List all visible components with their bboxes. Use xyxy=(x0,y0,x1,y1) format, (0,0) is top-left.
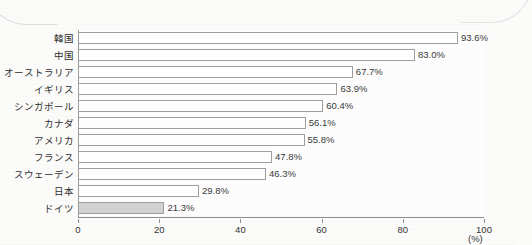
bar xyxy=(78,66,353,78)
bar xyxy=(78,117,306,129)
bar xyxy=(78,202,164,214)
bar-row: 67.7% xyxy=(78,64,484,81)
bar xyxy=(78,151,272,163)
bar-row: 60.4% xyxy=(78,98,484,115)
category-label: カナダ xyxy=(0,117,78,131)
bar-row: 63.9% xyxy=(78,81,484,98)
bar-row: 29.8% xyxy=(78,183,484,200)
x-tick-label: 80 xyxy=(398,223,409,236)
bar xyxy=(78,49,415,61)
bar-value-label: 29.8% xyxy=(202,184,229,198)
category-label: オーストラリア xyxy=(0,66,78,80)
category-label: 中国 xyxy=(0,49,78,63)
bar-row: 56.1% xyxy=(78,115,484,132)
bar-row: 55.8% xyxy=(78,132,484,149)
x-tick-label: 0 xyxy=(75,223,80,236)
category-label: 日本 xyxy=(0,185,78,199)
bar-row: 21.3% xyxy=(78,200,484,217)
bar xyxy=(78,185,199,197)
category-label: 韓国 xyxy=(0,32,78,46)
bar-value-label: 46.3% xyxy=(269,167,296,181)
x-axis-unit-label: (%) xyxy=(468,233,483,245)
x-axis-line xyxy=(78,217,484,218)
x-tick-label: 40 xyxy=(235,223,246,236)
x-tick-label: 60 xyxy=(316,223,327,236)
x-tick-label: 20 xyxy=(154,223,165,236)
bar-value-label: 55.8% xyxy=(308,133,335,147)
bar-value-label: 93.6% xyxy=(461,31,488,45)
category-label: シンガポール xyxy=(0,100,78,114)
bar xyxy=(78,168,266,180)
bar-row: 93.6% xyxy=(78,30,484,47)
bar-value-label: 21.3% xyxy=(167,201,194,215)
bar-value-label: 47.8% xyxy=(275,150,302,164)
category-label: ドイツ xyxy=(0,202,78,216)
bar-row: 83.0% xyxy=(78,47,484,64)
category-label: スウェーデン xyxy=(0,168,78,182)
bar xyxy=(78,32,458,44)
bar-value-label: 83.0% xyxy=(418,48,445,62)
bar xyxy=(78,83,337,95)
bar xyxy=(78,134,305,146)
category-label: フランス xyxy=(0,151,78,165)
bar xyxy=(78,100,323,112)
bar-value-label: 60.4% xyxy=(326,99,353,113)
bar-value-label: 56.1% xyxy=(309,116,336,130)
bar-value-label: 63.9% xyxy=(340,82,367,96)
bar-row: 47.8% xyxy=(78,149,484,166)
category-label: イギリス xyxy=(0,83,78,97)
category-label: アメリカ xyxy=(0,134,78,148)
bar-row: 46.3% xyxy=(78,166,484,183)
bar-value-label: 67.7% xyxy=(356,65,383,79)
